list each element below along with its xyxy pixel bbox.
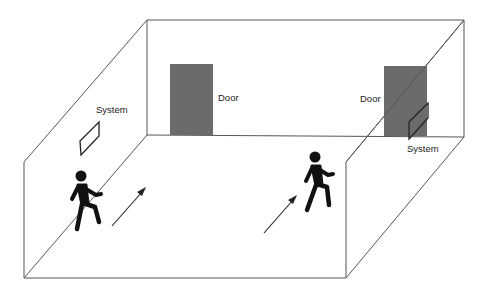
door-right-label: Door — [360, 93, 381, 104]
system-left-label: System — [96, 104, 128, 115]
person-left-icon — [72, 171, 101, 230]
system-right-label: System — [407, 143, 439, 154]
room-diagram: Door Door System System — [0, 0, 487, 295]
room-outline — [24, 20, 464, 278]
direction-arrow-left — [112, 187, 146, 226]
door-left — [170, 64, 213, 135]
person-right-icon — [306, 152, 333, 211]
left-wall-top-edge — [24, 20, 147, 162]
direction-arrow-right — [264, 195, 297, 233]
right-wall-edge-over-door — [346, 20, 464, 162]
door-left-label: Door — [218, 92, 239, 103]
system-left-device — [80, 122, 99, 155]
right-floor-edge — [346, 137, 464, 278]
